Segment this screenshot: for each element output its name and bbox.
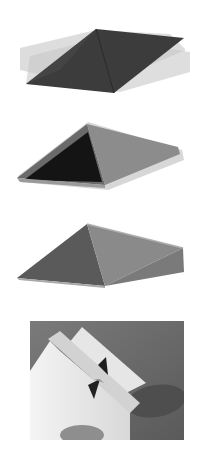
diamond-pyramid-shape <box>0 0 200 110</box>
ghosted-pyramid-shape <box>0 110 200 200</box>
panel-flat-diamond: Flat diamond pyramid with translucent gh… <box>0 0 200 110</box>
panel-ghosted-pyramid: Pyramid with blurred motion ghosting, da… <box>0 110 200 200</box>
panel-solid-pyramid: Solid pyramid, grey faces <box>0 200 200 300</box>
panel-photograph: Photograph of a folded paper model with … <box>0 300 200 458</box>
paper-model-photo <box>30 321 184 440</box>
solid-pyramid-shape <box>0 200 200 300</box>
